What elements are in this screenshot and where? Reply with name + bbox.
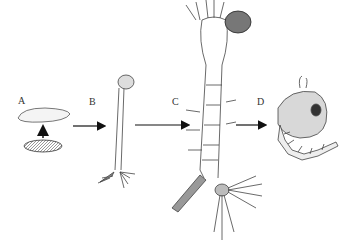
label-b: B	[89, 96, 96, 107]
early-larva-illustration	[98, 75, 135, 188]
label-d: D	[257, 96, 264, 107]
label-c: C	[172, 96, 179, 107]
life-cycle-diagram: A B C D	[0, 0, 357, 251]
diagram-drawing	[0, 0, 357, 251]
label-a: A	[18, 95, 25, 106]
late-larva-illustration	[172, 0, 262, 240]
egg-illustration	[18, 108, 70, 152]
pupa-illustration	[278, 76, 338, 160]
